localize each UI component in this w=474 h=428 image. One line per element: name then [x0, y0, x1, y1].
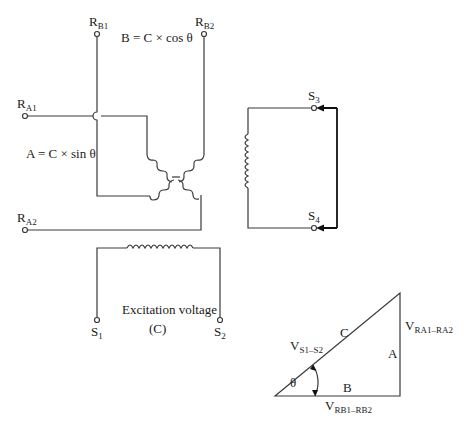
resolver-diagram: RB1 RB2 RA1 RA2 S3 S4 S1 S2 B = C × cos …: [0, 0, 474, 428]
equation-a: A = C × sin θ: [26, 146, 96, 161]
label-s2: S2: [214, 324, 226, 341]
label-ra1: RA1: [17, 96, 37, 113]
stator-s3-s4-winding: [245, 105, 337, 232]
label-s4: S4: [308, 208, 320, 225]
triangle-angle-label: θ: [290, 375, 296, 390]
terminal-s2: [218, 318, 223, 323]
triangle-base-label: B: [343, 380, 352, 395]
terminal-s3: [312, 106, 317, 111]
triangle-vertical-label: A: [388, 346, 398, 361]
triangle-hyp-label: C: [340, 325, 349, 340]
label-rb2: RB2: [195, 14, 214, 31]
rotor-a-winding: [28, 116, 201, 230]
terminal-ra2: [23, 228, 28, 233]
terminal-s1: [95, 318, 100, 323]
rotor-coils: [147, 155, 204, 200]
arrow-s3-icon: [316, 105, 324, 112]
label-ra2: RA2: [17, 210, 37, 227]
terminal-rb1: [95, 32, 100, 37]
equation-b: B = C × cos θ: [121, 30, 193, 45]
terminal-rb2: [202, 32, 207, 37]
label-rb1: RB1: [89, 14, 108, 31]
terminal-s4: [312, 226, 317, 231]
voltage-rb1-rb2: VRB1–RB2: [325, 398, 372, 415]
terminal-ra1: [23, 114, 28, 119]
voltage-ra1-ra2: VRA1–RA2: [405, 318, 453, 335]
excitation-label: Excitation voltage: [122, 302, 217, 317]
arrow-s4-icon: [316, 225, 324, 232]
label-s3: S3: [308, 88, 320, 105]
excitation-symbol: (C): [149, 321, 166, 336]
label-s1: S1: [91, 324, 103, 341]
voltage-s1-s2: VS1–S2: [290, 338, 323, 355]
terminals: [23, 32, 317, 323]
